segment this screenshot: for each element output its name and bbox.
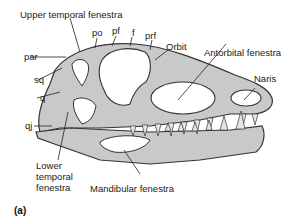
label-quadratojugal: qj — [25, 121, 32, 131]
panel-label: (a) — [14, 205, 26, 216]
label-frontal: f — [132, 28, 135, 38]
label-postorbital: po — [92, 28, 103, 38]
label-lower-temporal-fenestra-line1: Lower — [36, 160, 73, 171]
label-lower-temporal-fenestra-line3: fenestra — [36, 182, 73, 193]
label-squamosal: sq — [34, 75, 44, 85]
label-postfrontal: pf — [112, 26, 120, 36]
label-lower-temporal-fenestra-line2: temporal — [36, 171, 73, 182]
label-antorbital-fenestra: Antorbital fenestra — [204, 48, 281, 58]
label-parietal: par — [24, 52, 38, 62]
skull-diagram: Upper temporal fenestra po pf f prf Orbi… — [0, 0, 301, 221]
label-naris: Naris — [254, 74, 276, 84]
label-prefrontal: prf — [145, 31, 156, 41]
label-mandibular-fenestra: Mandibular fenestra — [90, 184, 174, 194]
label-quadrate: q — [40, 93, 45, 103]
label-orbit: Orbit — [166, 42, 187, 52]
label-upper-temporal-fenestra: Upper temporal fenestra — [20, 10, 122, 20]
label-lower-temporal-fenestra: Lower temporal fenestra — [36, 160, 73, 193]
